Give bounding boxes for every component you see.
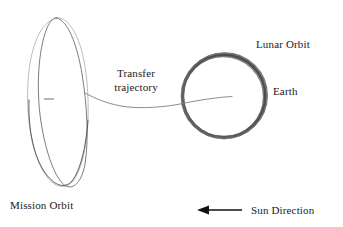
- transfer-trajectory-label-line1: Transfer: [117, 67, 155, 79]
- mission-orbit-label: Mission Orbit: [10, 199, 73, 212]
- mission-orbit-outer-ellipse-icon: [28, 18, 89, 187]
- lunar-orbit-label: Lunar Orbit: [256, 38, 310, 51]
- transfer-trajectory-label-line2: trajectory: [104, 80, 168, 94]
- mission-orbit-lower-arc-icon: [29, 100, 88, 185]
- orbital-transfer-diagram: Lunar Orbit Earth Transfertrajectory Mis…: [0, 0, 343, 227]
- lunar-orbit-group: [181, 53, 267, 139]
- sun-direction-label: Sun Direction: [251, 204, 314, 217]
- earth-label: Earth: [273, 85, 298, 98]
- diagram-canvas: [0, 0, 343, 227]
- sun-direction-arrow-head-icon: [197, 206, 209, 215]
- transfer-trajectory-icon: [85, 93, 232, 108]
- mission-orbit-group: [28, 18, 89, 187]
- sun-direction-arrow: [197, 206, 242, 215]
- lunar-orbit-ring-highlight-icon: [181, 53, 267, 139]
- transfer-trajectory-label: Transfertrajectory: [104, 66, 168, 94]
